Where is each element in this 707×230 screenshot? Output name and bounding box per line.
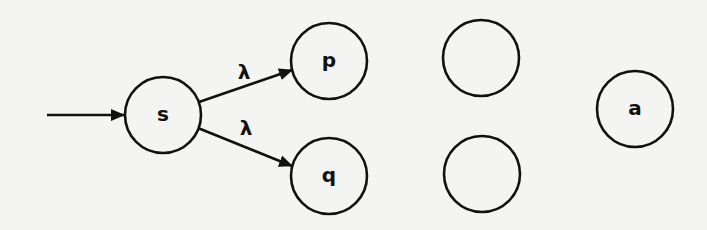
state-label-q: q xyxy=(322,165,336,185)
edge-label-s-q: λ xyxy=(240,118,253,138)
state-label-p: p xyxy=(322,50,336,70)
diagram-canvas xyxy=(0,0,707,230)
state-label-s: s xyxy=(157,104,169,124)
state-label-a: a xyxy=(628,98,642,118)
state-empty-bottom xyxy=(444,136,520,212)
automaton-diagram: s p q a λ λ xyxy=(0,0,707,230)
state-empty-top xyxy=(443,20,519,96)
edge-label-s-p: λ xyxy=(238,62,251,82)
